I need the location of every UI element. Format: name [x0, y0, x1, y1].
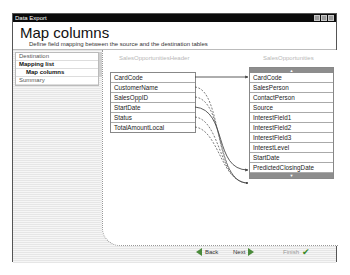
destination-fields-table: ▲ CardCode SalesPerson ContactPerson Sou…: [249, 67, 334, 179]
source-fields-table: CardCode CustomerName SalesOppID StartDa…: [110, 72, 196, 133]
destination-field[interactable]: PredictedClosingDate: [250, 163, 333, 173]
wizard-footer: Back Next Finish ✔: [13, 245, 336, 263]
finish-button[interactable]: Finish ✔: [283, 248, 310, 256]
title-bar: Data Export: [13, 14, 336, 22]
next-label: Next: [233, 249, 245, 255]
source-field[interactable]: SalesOppID: [111, 93, 195, 103]
next-arrow-icon: [248, 248, 254, 256]
source-field[interactable]: StartDate: [111, 103, 195, 113]
checkmark-icon: ✔: [302, 248, 310, 256]
source-field[interactable]: CardCode: [111, 73, 195, 83]
source-field[interactable]: TotalAmountLocal: [111, 123, 195, 132]
finish-label: Finish: [283, 249, 299, 255]
destination-field[interactable]: ContactPerson: [250, 93, 333, 103]
destination-field[interactable]: InterestField1: [250, 113, 333, 123]
data-export-window: Data Export Map columns Define field map…: [12, 13, 337, 262]
close-button[interactable]: [328, 15, 334, 21]
source-field[interactable]: CustomerName: [111, 83, 195, 93]
destination-field[interactable]: SalesPerson: [250, 83, 333, 93]
destination-field[interactable]: StartDate: [250, 153, 333, 163]
scroll-down-button[interactable]: ▼: [250, 173, 333, 178]
page-title: Map columns: [20, 24, 109, 41]
minimize-button[interactable]: [314, 15, 320, 21]
source-table-title: SalesOpportunitiesHeader: [119, 55, 189, 61]
destination-field[interactable]: InterestField2: [250, 123, 333, 133]
steps-list: Destination Mapping list Map columns Sum…: [15, 52, 99, 86]
back-button[interactable]: Back: [196, 248, 218, 256]
next-button[interactable]: Next: [233, 248, 254, 256]
source-field[interactable]: Status: [111, 113, 195, 123]
destination-field[interactable]: InterestField3: [250, 133, 333, 143]
back-arrow-icon: [196, 248, 202, 256]
back-label: Back: [205, 249, 218, 255]
step-mapping-list[interactable]: Mapping list: [16, 61, 98, 69]
step-map-columns[interactable]: Map columns: [16, 69, 98, 77]
step-destination[interactable]: Destination: [16, 53, 98, 61]
destination-table-title: SalesOpportunities: [263, 55, 314, 61]
step-summary[interactable]: Summary: [16, 77, 98, 85]
window-title: Data Export: [15, 15, 47, 21]
maximize-button[interactable]: [321, 15, 327, 21]
wizard-steps-sidebar: Destination Mapping list Map columns Sum…: [15, 52, 99, 86]
destination-field[interactable]: InterestLevel: [250, 143, 333, 153]
page-subtitle: Define field mapping between the source …: [29, 41, 208, 47]
wizard-body: Destination Mapping list Map columns Sum…: [13, 49, 336, 263]
mapping-panel: SalesOpportunitiesHeader SalesOpportunit…: [102, 50, 338, 246]
page-header: Map columns Define field mapping between…: [13, 22, 336, 49]
destination-field[interactable]: CardCode: [250, 73, 333, 83]
destination-field[interactable]: Source: [250, 103, 333, 113]
